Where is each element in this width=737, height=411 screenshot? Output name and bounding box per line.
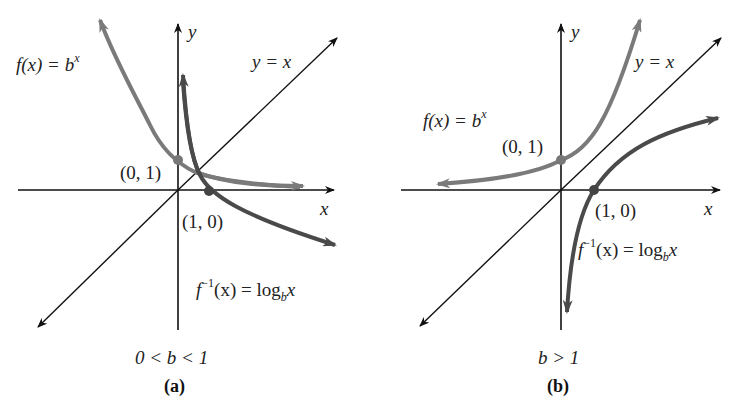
panel-a-log-curve-top xyxy=(183,75,200,175)
panel-a-exp-curve-right xyxy=(195,172,303,186)
panel-a-identity-line-lower xyxy=(38,190,178,327)
panel-a-log-label: f−1(x) = logbx xyxy=(196,277,295,303)
panel-a-condition: 0 < b < 1 xyxy=(135,347,208,369)
panel-a-identity-label: y = x xyxy=(252,52,291,71)
panel-b-log-label-mid: (x) = log xyxy=(596,239,663,260)
panel-b-y-axis-label: y xyxy=(571,22,579,41)
panel-b-caption: (b) xyxy=(547,376,569,397)
panel-a-exp-label: f(x) = bx xyxy=(16,52,80,74)
panel-a-log-label-mid: (x) = log xyxy=(214,279,281,300)
panel-b-x-axis-label: x xyxy=(704,199,712,218)
panel-a-point-0-1-label: (0, 1) xyxy=(120,163,161,182)
panel-a-x-axis-label: x xyxy=(320,199,328,218)
panel-b-log-label-x: x xyxy=(669,239,677,260)
panel-b-log-curve xyxy=(594,118,718,190)
panel-b-point-0-1 xyxy=(556,155,566,165)
panel-b-point-0-1-label: (0, 1) xyxy=(502,137,543,156)
panel-a-log-label-inverse: −1 xyxy=(201,276,214,290)
panel-b-condition: b > 1 xyxy=(538,347,579,369)
panel-a-point-0-1 xyxy=(173,155,183,165)
panel-a-exp-label-exponent: x xyxy=(74,51,79,65)
panel-b-point-1-0 xyxy=(589,185,599,195)
panel-b-identity-label: y = x xyxy=(635,52,674,71)
panel-b-log-label-inverse: −1 xyxy=(583,236,596,250)
panel-a-log-label-x: x xyxy=(287,279,295,300)
panel-b-point-1-0-label: (1, 0) xyxy=(595,201,636,220)
panel-b-exp-curve-left xyxy=(438,160,561,184)
panel-a-point-1-0 xyxy=(204,186,214,196)
panel-a-y-axis-label: y xyxy=(188,22,196,41)
panel-b-identity-line-lower xyxy=(420,190,561,326)
panel-a-exp-label-text: f(x) = b xyxy=(16,54,74,75)
panel-a-caption: (a) xyxy=(164,376,185,397)
panel-b-exp-label: f(x) = bx xyxy=(423,108,487,130)
panel-b-log-label: f−1(x) = logbx xyxy=(578,237,677,263)
panel-b-exp-label-exponent: x xyxy=(481,107,486,121)
panel-a-point-1-0-label: (1, 0) xyxy=(182,212,223,231)
panel-b-exp-label-text: f(x) = b xyxy=(423,110,481,131)
